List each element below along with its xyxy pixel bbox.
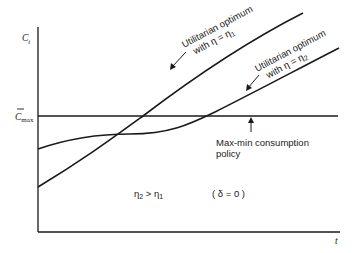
diagram-canvas: Ct Cmax Utilitarian optimum with η = η1 … xyxy=(0,0,353,253)
x-axis-label: t xyxy=(335,236,338,246)
y-axis-label: Ct xyxy=(22,33,31,46)
maxmin-label-line2: policy xyxy=(216,148,241,159)
arrow-eta1 xyxy=(172,52,186,67)
condition-label: η2 > η1 xyxy=(134,188,163,200)
utilitarian-eta1-curve xyxy=(38,13,303,187)
cmax-label: Cmax xyxy=(15,112,34,124)
delta-label: ( δ = 0 ) xyxy=(212,188,245,199)
arrow-eta2 xyxy=(248,75,259,88)
arrowhead-maxmin-icon xyxy=(248,117,254,123)
maxmin-label-line1: Max-min consumption xyxy=(216,137,309,148)
